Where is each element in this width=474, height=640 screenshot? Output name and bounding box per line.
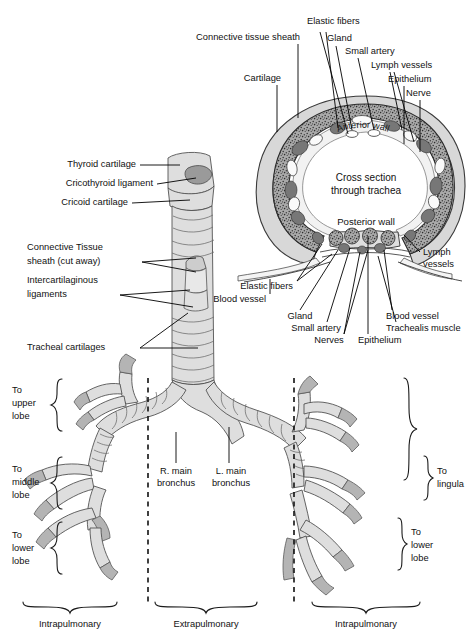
label-intrapulmonary-right: Intrapulmonary (335, 619, 397, 629)
label-to-lower-lobe-right-line2: lower (411, 540, 433, 550)
label-to-lower-lobe-left-line3: lobe (12, 556, 30, 566)
label-connective-tissue-sheath: Connective tissue sheath (196, 32, 300, 42)
label-cricothyroid-ligament: Cricothyroid ligament (66, 178, 154, 188)
label-lymph-vessels-right-line1: Lymph (423, 247, 451, 257)
anatomy-figure-root: Anterior wall Cross section through trac… (0, 0, 474, 640)
label-extrapulmonary: Extrapulmonary (173, 619, 238, 629)
label-small-artery-top: Small artery (345, 46, 395, 56)
cross-section-title-line2: through trachea (331, 185, 401, 196)
label-right-main-bronchus-line2: bronchus (157, 478, 196, 488)
label-right-main-bronchus-line1: R. main (160, 466, 192, 476)
bronchial-tree-drawing (24, 354, 365, 595)
label-cartilage: Cartilage (244, 73, 281, 83)
label-thyroid-cartilage: Thyroid cartilage (67, 159, 136, 169)
label-to-lower-lobe-left-line2: lower (12, 543, 34, 553)
bronchus-leader-lines (176, 427, 229, 463)
label-epithelium-bottom: Epithelium (358, 335, 402, 345)
label-trachealis-muscle: Trachealis muscle (386, 323, 461, 333)
label-to-upper-lobe-line3: lobe (12, 411, 30, 421)
label-intercartilaginous-ligaments-line2: ligaments (27, 289, 67, 299)
label-to-middle-lobe-line2: middle (12, 477, 39, 487)
label-to-lower-lobe-right-line1: To (411, 527, 421, 537)
label-connective-tissue-sheath-cutaway-line2: sheath (cut away) (27, 256, 100, 266)
label-elastic-fibers-bottom: Elastic fibers (240, 281, 293, 291)
label-to-lingula-line2: lingula (437, 479, 465, 489)
label-to-upper-lobe-line2: upper (12, 398, 36, 408)
label-to-upper-lobe-line1: To (12, 385, 22, 395)
label-epithelium-top: Epithelium (388, 74, 432, 84)
label-lymph-vessels-right-line2: vessels (423, 259, 454, 269)
label-elastic-fibers-top: Elastic fibers (307, 16, 360, 26)
label-blood-vessel-left: Blood vessel (213, 294, 266, 304)
label-tracheal-cartilages: Tracheal cartilages (27, 342, 106, 352)
label-to-middle-lobe-line3: lobe (12, 490, 30, 500)
label-nerve: Nerve (406, 88, 431, 98)
label-gland-bottom: Gland (288, 311, 313, 321)
label-to-lower-lobe-right-line3: lobe (411, 553, 429, 563)
label-intercartilaginous-ligaments-line1: Intercartilaginous (27, 275, 98, 285)
label-left-main-bronchus-line2: bronchus (212, 478, 251, 488)
cross-section-title-line1: Cross section (336, 172, 397, 183)
label-nerves: Nerves (314, 335, 344, 345)
label-blood-vessel-right: Blood vessel (386, 311, 439, 321)
label-gland-top: Gland (327, 33, 352, 43)
figure-svg: Anterior wall Cross section through trac… (0, 0, 474, 640)
label-to-lower-lobe-left-line1: To (12, 530, 22, 540)
bottom-braces (23, 602, 420, 613)
label-connective-tissue-sheath-cutaway-line1: Connective Tissue (27, 242, 103, 252)
label-small-artery-bottom: Small artery (291, 323, 341, 333)
label-intrapulmonary-left: Intrapulmonary (39, 619, 101, 629)
label-to-middle-lobe-line1: To (12, 464, 22, 474)
label-cricoid-cartilage: Cricoid cartilage (61, 197, 128, 207)
label-left-main-bronchus-line1: L. main (216, 466, 247, 476)
cross-section-posterior-wall-label: Posterior wall (337, 216, 395, 227)
label-lymph-vessels-top: Lymph vessels (371, 60, 432, 70)
label-to-lingula-line1: To (437, 466, 447, 476)
